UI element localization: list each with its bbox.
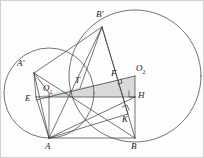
geometry-figure: A' B' O1 O2 E T F H K A B: [0, 0, 204, 158]
label-O1: O1: [43, 84, 53, 95]
label-T: T: [75, 76, 80, 85]
label-A-prime: A': [17, 59, 24, 68]
label-B: B: [131, 142, 137, 151]
label-O1-sub: 1: [50, 89, 53, 95]
segment-E-A: [36, 97, 49, 138]
segment-Aprime-Bprime: [34, 27, 102, 73]
label-H: H: [138, 91, 145, 100]
label-F: F: [111, 69, 117, 78]
label-A: A: [45, 142, 51, 151]
label-B-prime: B': [96, 10, 103, 19]
right-angle-marker-K: [122, 105, 129, 110]
label-O2: O2: [136, 64, 146, 75]
label-E: E: [25, 94, 31, 103]
segment-Bprime-T: [80, 27, 102, 88]
label-K: K: [122, 115, 128, 124]
diagram-canvas: [1, 1, 204, 158]
label-O2-sub: 2: [143, 69, 146, 75]
